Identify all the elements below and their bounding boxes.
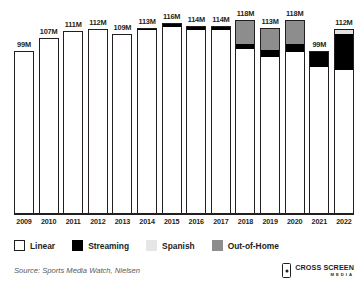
bar-value-label: 109M bbox=[114, 23, 132, 32]
legend-swatch-spanish bbox=[146, 240, 157, 251]
bar-column: 113M bbox=[137, 8, 157, 214]
bar-value-label: 113M bbox=[261, 17, 278, 26]
x-axis-label-2010: 2010 bbox=[39, 217, 59, 226]
logo-text-top: CROSS SCREEN bbox=[295, 264, 354, 271]
source-note: Source: Sports Media Watch, Nielsen bbox=[14, 266, 140, 275]
bar-segment-linear bbox=[335, 70, 353, 214]
x-axis-label-2014: 2014 bbox=[137, 217, 157, 226]
bar-segment-linear bbox=[310, 67, 328, 214]
bar-segment-linear bbox=[163, 27, 181, 214]
bar-stack bbox=[309, 51, 329, 214]
bar-value-label: 114M bbox=[188, 15, 205, 24]
bar-segment-linear bbox=[40, 39, 58, 214]
bar-value-label: 99M bbox=[312, 40, 326, 49]
x-axis-label-2019: 2019 bbox=[260, 217, 280, 226]
bar-segment-linear bbox=[236, 49, 254, 214]
bar-stack bbox=[39, 38, 59, 214]
chart-legend: LinearStreamingSpanishOut-of-Home bbox=[14, 240, 296, 251]
bar-stack bbox=[63, 31, 83, 214]
x-axis-label-2018: 2018 bbox=[235, 217, 255, 226]
x-axis-label-2015: 2015 bbox=[162, 217, 182, 226]
x-axis-label-2011: 2011 bbox=[63, 217, 83, 226]
bar-value-label: 107M bbox=[40, 27, 58, 36]
legend-swatch-linear bbox=[14, 240, 25, 251]
x-axis-label-2020: 2020 bbox=[285, 217, 305, 226]
bar-value-label: 113M bbox=[138, 17, 155, 26]
bar-value-label: 111M bbox=[65, 20, 82, 29]
legend-label: Out-of-Home bbox=[228, 241, 279, 251]
bar-column: 109M bbox=[112, 8, 132, 214]
legend-item-spanish[interactable]: Spanish bbox=[146, 240, 195, 251]
bar-column: 99M bbox=[309, 8, 329, 214]
bar-column: 107M bbox=[39, 8, 59, 214]
x-axis-label-2016: 2016 bbox=[186, 217, 206, 226]
bar-column: 99M bbox=[14, 8, 34, 214]
bar-column: 118M bbox=[235, 8, 255, 214]
bar-column: 112M bbox=[334, 8, 354, 214]
bar-stack bbox=[211, 26, 231, 214]
legend-item-out-of-home[interactable]: Out-of-Home bbox=[212, 240, 279, 251]
bar-stack bbox=[14, 51, 34, 214]
bar-segment-linear bbox=[89, 30, 107, 214]
x-axis-label-2013: 2013 bbox=[112, 217, 132, 226]
bar-segment-streaming bbox=[335, 34, 353, 70]
legend-label: Streaming bbox=[88, 241, 129, 251]
x-axis-label-2012: 2012 bbox=[88, 217, 108, 226]
bar-column: 118M bbox=[285, 8, 305, 214]
bar-segment-linear bbox=[15, 52, 33, 214]
bar-value-label: 112M bbox=[89, 18, 106, 27]
bar-value-label: 118M bbox=[286, 9, 303, 18]
x-axis-label-2021: 2021 bbox=[309, 217, 329, 226]
legend-item-linear[interactable]: Linear bbox=[14, 240, 55, 251]
bar-column: 114M bbox=[211, 8, 231, 214]
plot-area: 99M107M111M112M109M113M116M114M114M118M1… bbox=[14, 8, 354, 214]
bar-column: 116M bbox=[162, 8, 182, 214]
bar-stack bbox=[88, 29, 108, 214]
bar-segment-streaming bbox=[261, 50, 279, 57]
bar-segment-out-of-home bbox=[286, 21, 304, 44]
bar-value-label: 116M bbox=[163, 12, 180, 21]
bar-segment-linear bbox=[261, 57, 279, 214]
legend-swatch-out-of-home bbox=[212, 240, 223, 251]
bar-segment-streaming bbox=[310, 52, 328, 67]
bar-column: 111M bbox=[63, 8, 83, 214]
bar-segment-linear bbox=[187, 30, 205, 214]
logo-mark-icon bbox=[282, 263, 291, 278]
bar-stack bbox=[162, 23, 182, 214]
bar-stack bbox=[285, 20, 305, 214]
x-axis-line bbox=[14, 213, 354, 215]
logo-wordmark: CROSS SCREEN MEDIA bbox=[295, 264, 354, 276]
bar-stack bbox=[112, 34, 132, 214]
bar-stack bbox=[186, 26, 206, 214]
stacked-bar-chart: 99M107M111M112M109M113M116M114M114M118M1… bbox=[0, 0, 363, 285]
cross-screen-media-logo: CROSS SCREEN MEDIA bbox=[282, 263, 354, 278]
bar-stack bbox=[235, 20, 255, 214]
legend-item-streaming[interactable]: Streaming bbox=[72, 240, 129, 251]
bar-value-label: 118M bbox=[237, 9, 254, 18]
bar-segment-out-of-home bbox=[261, 29, 279, 50]
bar-value-label: 114M bbox=[212, 15, 229, 24]
bar-stack bbox=[137, 28, 157, 214]
bar-column: 112M bbox=[88, 8, 108, 214]
legend-label: Spanish bbox=[162, 241, 195, 251]
bar-segment-linear bbox=[113, 35, 131, 214]
bar-value-label: 99M bbox=[17, 40, 31, 49]
bar-segment-out-of-home bbox=[236, 21, 254, 44]
legend-swatch-streaming bbox=[72, 240, 83, 251]
x-axis-label-2022: 2022 bbox=[334, 217, 354, 226]
legend-label: Linear bbox=[30, 241, 55, 251]
bar-value-label: 112M bbox=[335, 18, 352, 27]
bar-stack bbox=[260, 28, 280, 214]
bar-column: 114M bbox=[186, 8, 206, 214]
x-axis-tick-labels: 2009201020112012201320142015201620172018… bbox=[14, 217, 354, 226]
bar-segment-linear bbox=[64, 32, 82, 214]
bar-stack bbox=[334, 29, 354, 214]
bar-column: 113M bbox=[260, 8, 280, 214]
bar-segment-linear bbox=[138, 30, 156, 214]
x-axis-label-2009: 2009 bbox=[14, 217, 34, 226]
x-axis-label-2017: 2017 bbox=[211, 217, 231, 226]
logo-text-bottom: MEDIA bbox=[295, 273, 354, 277]
bar-segment-linear bbox=[286, 52, 304, 214]
bar-series-container: 99M107M111M112M109M113M116M114M114M118M1… bbox=[14, 8, 354, 214]
bar-segment-linear bbox=[212, 30, 230, 214]
